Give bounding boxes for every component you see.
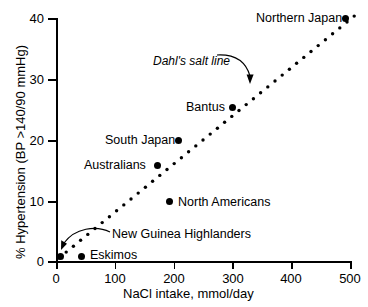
- x-tick-200: [174, 261, 176, 269]
- point-label-eskimos: Eskimos: [90, 249, 137, 262]
- data-point-northern-japan: [342, 15, 349, 22]
- data-point-australians: [154, 162, 161, 169]
- new-guinea-highlanders-arrow: [61, 228, 110, 250]
- point-label-south-japan: South Japan: [105, 134, 175, 147]
- x-tick-label-500: 500: [334, 272, 366, 285]
- x-tick-0: [56, 261, 58, 269]
- y-tick-30: [48, 79, 56, 81]
- point-label-north-americans: North Americans: [178, 196, 270, 209]
- annotation-dahls-salt-line: Dahl's salt line: [153, 55, 230, 68]
- scatter-chart: 40 30 20 10 0 0 100 200 300 400 500 NaCl…: [0, 0, 368, 307]
- data-point-bantus: [229, 104, 236, 111]
- x-tick-400: [291, 261, 293, 269]
- point-label-australians: Australians: [84, 159, 146, 172]
- data-point-new-guinea-highlanders: [57, 253, 64, 260]
- x-tick-label-200: 200: [158, 272, 190, 285]
- y-tick-20: [48, 140, 56, 142]
- y-tick-40: [48, 18, 56, 20]
- x-tick-500: [350, 261, 352, 269]
- y-axis-title: % Hypertension (BP >140/90 mmHg): [14, 45, 28, 259]
- trend-line-dotted: [57, 14, 356, 259]
- x-tick-label-400: 400: [275, 272, 307, 285]
- point-label-northern-japan: Northern Japan: [256, 12, 342, 25]
- y-tick-10: [48, 201, 56, 203]
- y-axis-line: [56, 18, 58, 262]
- data-point-eskimos: [78, 253, 85, 260]
- x-tick-300: [232, 261, 234, 269]
- y-tick-label-40: 40: [16, 12, 44, 25]
- x-axis-title: NaCl intake, mmol/day: [123, 287, 254, 301]
- point-label-new-guinea-highlanders: New Guinea Highlanders: [112, 228, 251, 241]
- x-tick-label-300: 300: [217, 272, 249, 285]
- data-point-south-japan: [175, 137, 182, 144]
- point-label-bantus: Bantus: [186, 101, 225, 114]
- x-tick-100: [115, 261, 117, 269]
- y-tick-0: [48, 261, 56, 263]
- x-tick-label-0: 0: [41, 272, 71, 285]
- x-tick-label-100: 100: [99, 272, 131, 285]
- data-point-north-americans: [166, 198, 173, 205]
